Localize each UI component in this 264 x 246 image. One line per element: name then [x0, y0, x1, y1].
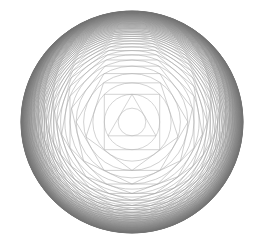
nested-polygon-diagram: Nested circumscribed polygons and circle…: [0, 0, 264, 246]
